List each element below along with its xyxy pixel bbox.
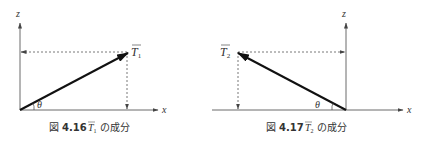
x-axis-label: x bbox=[161, 104, 167, 115]
figure-canvas: z x T1 θ 図 4.16 T1 の成分 z x bbox=[0, 0, 425, 145]
svg-text:4.16: 4.16 bbox=[62, 122, 87, 133]
angle-arc bbox=[33, 103, 34, 110]
vector-t2-label: T2 bbox=[220, 45, 231, 60]
caption-4-17: 図 4.17 T2 の成分 bbox=[266, 122, 347, 134]
figure-4-17: z x T2 θ 図 4.17 T2 の成分 bbox=[212, 8, 412, 134]
angle-theta-label: θ bbox=[315, 99, 320, 110]
angle-theta-label: θ bbox=[37, 99, 42, 110]
vector-t1-label: T1 bbox=[131, 45, 142, 60]
z-axis-label: z bbox=[341, 8, 346, 19]
angle-arc bbox=[332, 103, 333, 110]
svg-text:の成分: の成分 bbox=[100, 122, 130, 133]
z-axis-label: z bbox=[15, 8, 20, 19]
svg-text:の成分: の成分 bbox=[317, 122, 347, 133]
figure-4-16: z x T1 θ 図 4.16 T1 の成分 bbox=[15, 8, 167, 134]
svg-text:4.17: 4.17 bbox=[279, 122, 304, 133]
svg-text:図: 図 bbox=[49, 122, 59, 133]
svg-text:図: 図 bbox=[266, 122, 276, 133]
vector-t2-arrow bbox=[238, 53, 346, 110]
svg-text:T2: T2 bbox=[305, 122, 314, 134]
x-axis-label: x bbox=[406, 104, 412, 115]
caption-4-16: 図 4.16 T1 の成分 bbox=[49, 122, 130, 134]
svg-text:T1: T1 bbox=[88, 122, 97, 134]
